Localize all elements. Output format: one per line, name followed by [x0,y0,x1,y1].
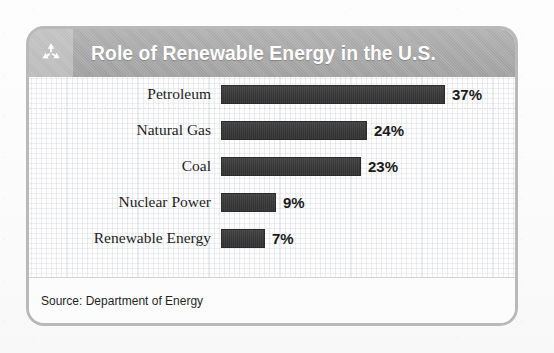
value-label: 24% [374,122,404,139]
chart-row: Nuclear Power 9% [29,191,515,213]
page-title: Role of Renewable Energy in the U.S. [91,41,436,65]
chart-plot-area: Petroleum 37% Natural Gas 24% Coal 23% N… [29,77,515,277]
chart-footer: Source: Department of Energy [29,278,515,323]
chart-header: Role of Renewable Energy in the U.S. [29,29,515,77]
bar-natural-gas [221,121,367,140]
category-label: Renewable Energy [29,229,221,247]
category-label: Petroleum [29,85,221,103]
category-label: Natural Gas [29,121,221,139]
bar-nuclear-power [221,193,276,212]
chart-row: Natural Gas 24% [29,119,515,141]
category-label: Nuclear Power [29,193,221,211]
chart-card: Role of Renewable Energy in the U.S. Pet… [26,26,518,326]
value-label: 9% [283,194,305,211]
recycle-icon [29,29,73,77]
chart-row: Renewable Energy 7% [29,227,515,249]
bar-coal [221,157,361,176]
value-label: 7% [272,230,294,247]
value-label: 37% [452,86,482,103]
chart-row: Petroleum 37% [29,83,515,105]
bar-renewable-energy [221,229,265,248]
source-note: Source: Department of Energy [41,294,203,308]
chart-row: Coal 23% [29,155,515,177]
bar-petroleum [221,85,445,104]
category-label: Coal [29,157,221,175]
value-label: 23% [368,158,398,175]
